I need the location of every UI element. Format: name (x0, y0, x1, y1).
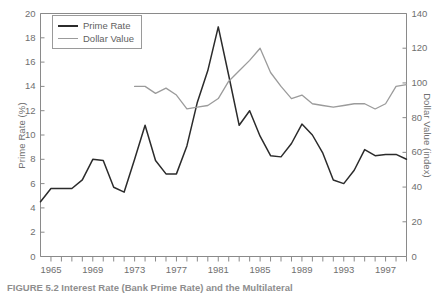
y-left-tick-10: 10 (10, 129, 36, 140)
y-right-tick-0: 0 (412, 251, 438, 262)
x-tick-1973: 1973 (118, 264, 152, 275)
y-right-tick-40: 40 (412, 181, 438, 192)
figure-container: Prime Rate (%) Dollar Value (index) 0246… (0, 0, 447, 293)
x-tick-1993: 1993 (327, 264, 361, 275)
y-left-tick-4: 4 (10, 202, 36, 213)
x-tick-1965: 1965 (34, 264, 68, 275)
y-right-tick-60: 60 (412, 146, 438, 157)
y-left-tick-12: 12 (10, 105, 36, 116)
x-tick-1981: 1981 (201, 264, 235, 275)
y-left-tick-0: 0 (10, 251, 36, 262)
y-right-tick-120: 120 (412, 42, 438, 53)
y-right-tick-100: 100 (412, 77, 438, 88)
y-right-tick-80: 80 (412, 112, 438, 123)
x-tick-1989: 1989 (285, 264, 319, 275)
y-left-tick-2: 2 (10, 226, 36, 237)
legend-item-prime-rate: Prime Rate (58, 19, 134, 32)
x-tick-1997: 1997 (369, 264, 403, 275)
x-tick-1977: 1977 (159, 264, 193, 275)
y-left-tick-14: 14 (10, 80, 36, 91)
y-left-tick-18: 18 (10, 32, 36, 43)
chart-legend: Prime Rate Dollar Value (52, 15, 142, 49)
legend-label-prime-rate: Prime Rate (83, 19, 131, 32)
chart-plot-area: Prime Rate (%) Dollar Value (index) 0246… (0, 0, 447, 272)
legend-label-dollar-value: Dollar Value (83, 32, 134, 45)
y-left-tick-16: 16 (10, 56, 36, 67)
y-left-tick-8: 8 (10, 153, 36, 164)
y-left-tick-20: 20 (10, 8, 36, 19)
legend-item-dollar-value: Dollar Value (58, 32, 134, 45)
y-axis-right-title: Dollar Value (index) (422, 74, 433, 198)
figure-caption: FIGURE 5.2 Interest Rate (Bank Prime Rat… (7, 282, 437, 293)
y-left-tick-6: 6 (10, 178, 36, 189)
x-tick-1969: 1969 (76, 264, 110, 275)
y-right-tick-140: 140 (412, 8, 438, 19)
x-tick-1985: 1985 (243, 264, 277, 275)
y-right-tick-20: 20 (412, 216, 438, 227)
legend-swatch-dollar-value (58, 38, 78, 39)
legend-swatch-prime-rate (58, 25, 78, 27)
